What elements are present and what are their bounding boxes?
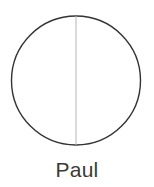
- circle-diagram-figure: Paul: [0, 0, 154, 187]
- figure-caption: Paul: [0, 158, 154, 182]
- diagram-canvas: [0, 0, 154, 160]
